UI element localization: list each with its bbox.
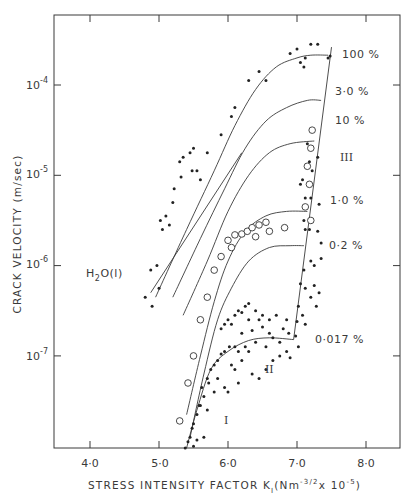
y-tick-label: 10-4 (26, 76, 48, 92)
solid-data-point (316, 156, 319, 159)
solid-data-point (155, 264, 158, 267)
solid-data-point (207, 381, 210, 384)
solid-data-point (261, 314, 264, 317)
solid-data-point (304, 323, 307, 326)
x-tick-label: 4·0 (81, 457, 99, 470)
solid-data-point (223, 350, 226, 353)
open-data-point (281, 224, 288, 231)
solid-data-point (230, 323, 233, 326)
y-tick-labels: 10-4 10-5 10-6 10-7 (26, 76, 48, 363)
solid-data-point (240, 332, 243, 335)
data-points (144, 43, 332, 450)
y-tick-label: 10-7 (26, 347, 48, 363)
solid-data-point (285, 318, 288, 321)
solid-data-point (247, 318, 250, 321)
x-tick-label: 5·0 (151, 457, 169, 470)
solid-data-point (202, 436, 205, 439)
solid-data-point (318, 203, 321, 206)
solid-data-point (299, 183, 302, 186)
open-data-point (263, 219, 270, 226)
solid-data-point (301, 178, 304, 181)
solid-data-point (289, 356, 292, 359)
label-1-pct: 1·0 % (330, 194, 364, 207)
solid-data-point (304, 56, 307, 59)
x-axis-title: STRESS INTENSITY FACTOR KI(Nm-3/2x 10-5) (88, 478, 361, 495)
solid-data-point (254, 309, 257, 312)
solid-data-point (304, 196, 307, 199)
open-data-point (306, 181, 313, 188)
solid-data-point (302, 219, 305, 222)
label-100-pct: 100 % (342, 48, 379, 61)
solid-data-point (320, 242, 323, 245)
solid-data-point (192, 445, 195, 448)
solid-data-point (278, 354, 281, 357)
x-tick-label: 6·0 (219, 457, 237, 470)
solid-data-point (316, 230, 319, 233)
solid-data-point (206, 409, 209, 412)
solid-data-point (287, 332, 290, 335)
solid-data-point (278, 341, 281, 344)
solid-data-point (311, 169, 314, 172)
solid-data-point (213, 363, 216, 366)
open-data-point (256, 222, 263, 229)
label-10-pct: 10 % (335, 114, 365, 127)
open-data-point (308, 145, 315, 152)
h2o-label: H2O(l) (86, 267, 123, 283)
solid-data-point (320, 257, 323, 260)
solid-data-point (228, 345, 231, 348)
solid-data-point (315, 305, 318, 308)
solid-data-point (200, 386, 203, 389)
solid-data-point (227, 318, 230, 321)
solid-data-point (191, 169, 194, 172)
solid-data-point (195, 169, 198, 172)
solid-data-point (151, 305, 154, 308)
open-data-point (252, 233, 259, 240)
solid-data-point (223, 386, 226, 389)
solid-data-point (149, 269, 152, 272)
solid-data-point (202, 395, 205, 398)
solid-data-point (216, 359, 219, 362)
y-axis-title: CRACK VELOCITY (m/sec) (11, 155, 23, 314)
solid-data-point (192, 422, 195, 425)
open-data-point (228, 244, 235, 251)
solid-data-point (220, 353, 223, 356)
solid-data-point (309, 260, 312, 263)
solid-data-point (316, 43, 319, 46)
solid-data-point (180, 176, 183, 179)
solid-data-point (313, 284, 316, 287)
solid-data-point (171, 201, 174, 204)
solid-data-point (189, 436, 192, 439)
solid-data-point (271, 359, 274, 362)
solid-data-point (244, 345, 247, 348)
solid-data-point (297, 305, 300, 308)
solid-data-point (261, 326, 264, 329)
axis-ticks (54, 15, 400, 448)
solid-data-point (296, 320, 299, 323)
solid-data-point (159, 219, 162, 222)
solid-data-point (258, 70, 261, 73)
solid-data-point (216, 377, 219, 380)
solid-data-point (144, 296, 147, 299)
solid-data-point (306, 142, 309, 145)
solid-data-point (302, 269, 305, 272)
solid-data-point (299, 282, 302, 285)
solid-data-point (329, 55, 332, 58)
solid-data-point (258, 377, 261, 380)
solid-data-point (268, 318, 271, 321)
open-data-point (302, 204, 309, 211)
y-tick-label: 10-6 (26, 255, 48, 271)
x-tick-label: 8·0 (357, 457, 375, 470)
x-tick-labels: 4·0 5·0 6·0 7·0 8·0 (81, 457, 375, 470)
solid-data-point (302, 65, 305, 68)
solid-data-point (297, 345, 300, 348)
solid-data-point (294, 335, 297, 338)
region-i-label: I (224, 414, 228, 427)
solid-data-point (240, 359, 243, 362)
solid-data-point (161, 228, 164, 231)
solid-data-point (182, 156, 185, 159)
open-data-point (204, 294, 211, 301)
solid-data-point (220, 327, 223, 330)
solid-data-point (244, 305, 247, 308)
solid-data-point (230, 363, 233, 366)
solid-data-point (191, 427, 194, 430)
